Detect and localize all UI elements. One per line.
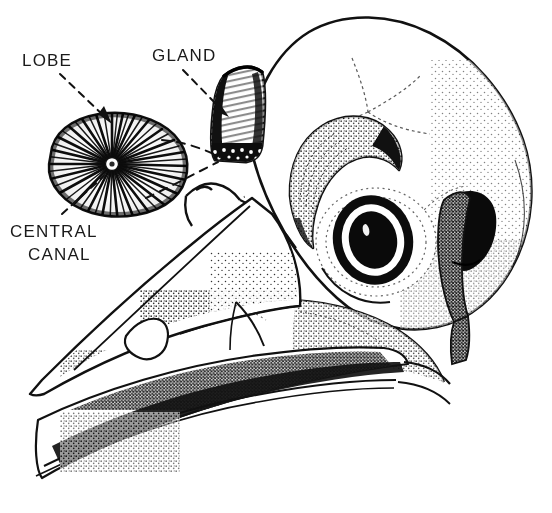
label-central-canal-line1: CENTRAL (10, 222, 98, 242)
illustration-figure: LOBE GLAND CENTRAL CANAL (0, 0, 552, 513)
label-central-canal-line2: CANAL (28, 245, 91, 265)
label-gland: GLAND (152, 46, 217, 66)
jaw-shadow-stipple (60, 412, 180, 472)
central-canal-point (106, 158, 119, 171)
label-lobe: LOBE (22, 51, 72, 71)
